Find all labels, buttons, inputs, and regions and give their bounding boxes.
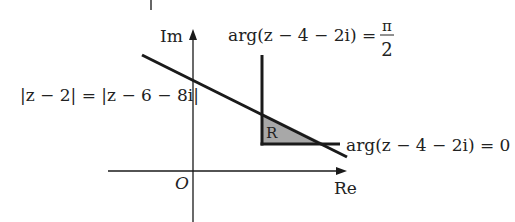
argand-diagram: Im Re O |z − 2| = |z − 6 − 8i| arg(z − 4… <box>0 0 515 222</box>
arg-pi-over-2-denominator: 2 <box>381 39 392 60</box>
region-label: R <box>266 124 278 142</box>
imag-axis-label: Im <box>160 26 183 46</box>
perp-bisector-label: |z − 2| = |z − 6 − 8i| <box>20 85 199 105</box>
real-axis-arrow-icon <box>336 167 347 175</box>
arg-zero-label: arg(z − 4 − 2i) = 0 <box>346 135 510 155</box>
arg-pi-over-2-numerator: π <box>382 17 392 35</box>
arg-pi-over-2-label: arg(z − 4 − 2i) = <box>228 25 376 45</box>
real-axis-label: Re <box>334 178 357 198</box>
perp-bisector-line <box>142 55 347 157</box>
origin-label: O <box>175 173 189 193</box>
imag-axis-arrow-icon <box>189 29 197 40</box>
